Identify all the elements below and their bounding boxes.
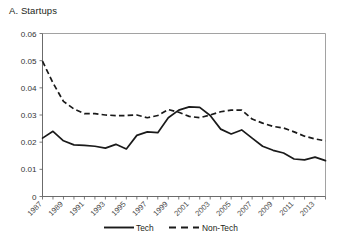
y-tick-label: 0.05: [21, 57, 37, 66]
x-tick-label: 1987: [26, 200, 44, 218]
x-tick-label: 1991: [68, 200, 86, 218]
plot-frame: [43, 34, 326, 197]
x-tick-label: 1993: [88, 200, 106, 218]
legend-label-tech: Tech: [136, 223, 154, 233]
x-tick-label: 2013: [298, 200, 316, 218]
x-tick-label: 2003: [193, 200, 211, 218]
series-line-tech: [43, 107, 326, 161]
x-tick-label: 1997: [130, 200, 148, 218]
chart-legend: Tech Non-Tech: [104, 223, 238, 233]
frame-top-right: [43, 34, 326, 197]
series-line-non-tech: [43, 61, 326, 141]
x-tick-label: 2007: [235, 200, 253, 218]
x-tick-label: 2001: [172, 200, 190, 218]
x-tick-label: 2005: [214, 200, 232, 218]
axis-left-bottom: [43, 34, 326, 197]
x-tick-label: 2011: [278, 200, 296, 218]
x-tick-label: 1989: [47, 200, 65, 218]
y-axis-ticks: 00.010.020.030.040.050.06: [21, 30, 43, 202]
x-tick-label: 2009: [256, 200, 274, 218]
y-tick-label: 0.03: [21, 111, 37, 120]
y-tick-label: 0.06: [21, 30, 37, 39]
x-tick-label: 1999: [151, 200, 169, 218]
x-axis-labels: 1987198919911993199519971999200120032005…: [26, 200, 317, 218]
y-tick-label: 0.02: [21, 138, 37, 147]
y-tick-label: 0.04: [21, 84, 37, 93]
x-tick-label: 1995: [109, 200, 127, 218]
legend-label-non-tech: Non-Tech: [202, 223, 238, 233]
chart-figure: A. Startups 00.010.020.030.040.050.06 19…: [0, 0, 339, 242]
line-chart: 00.010.020.030.040.050.06 19871989199119…: [0, 0, 339, 242]
y-tick-label: 0.01: [21, 165, 37, 174]
